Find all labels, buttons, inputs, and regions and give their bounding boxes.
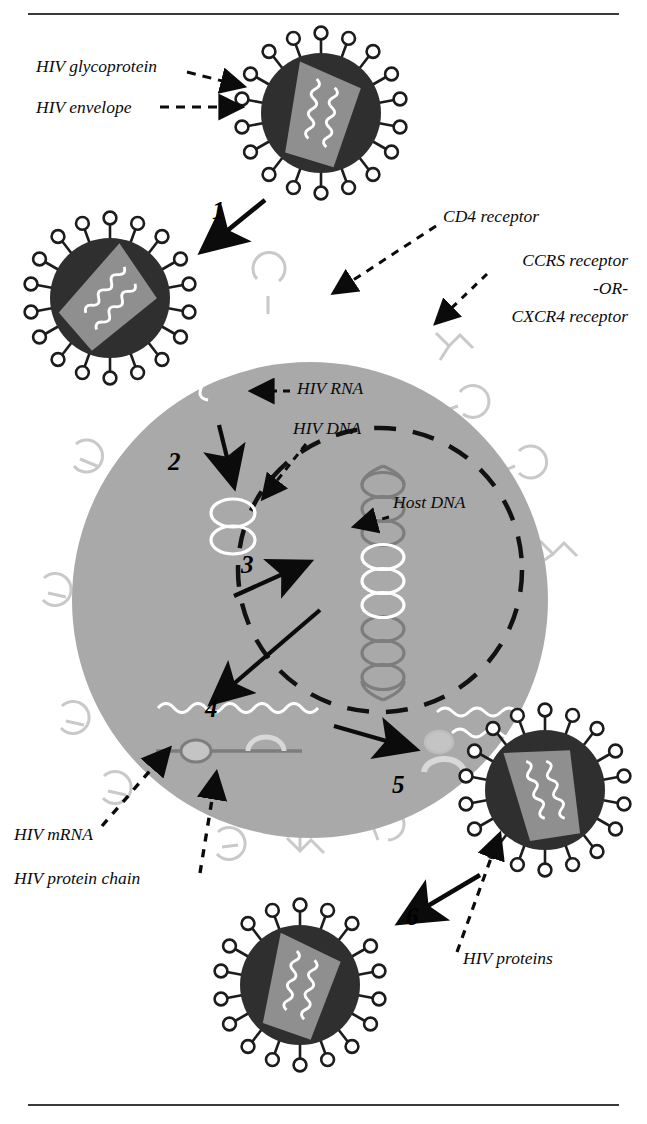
coreceptor [540,541,577,563]
ribosome [181,740,211,762]
label-cxcr4-receptor: CXCR4 receptor [512,306,629,326]
diagram-canvas: HIV glycoprotein HIV envelope CD4 recept… [0,0,647,1124]
label-hiv-glycoprotein: HIV glycoprotein [35,56,157,76]
cd4-receptor [74,440,103,472]
label-hiv-dna: HIV DNA [292,418,362,438]
cd4-receptor [61,702,89,734]
leader-hiv-mrna [102,750,168,826]
step-number-4: 4 [204,695,218,722]
virion-released [215,899,386,1072]
label-ccr5-receptor: CCRS receptor [522,250,628,270]
label-hiv-proteins: HIV proteins [462,948,553,968]
cd4-receptor [253,252,285,314]
label-hiv-protein-chain: HIV protein chain [13,868,141,888]
step-number-5: 5 [392,771,405,798]
step-number-3: 3 [240,551,254,578]
hiv-replication-diagram: HIV glycoprotein HIV envelope CD4 recept… [0,0,647,1124]
label-hiv-rna: HIV RNA [296,378,364,398]
leader-cd4-receptor [335,226,436,292]
cd4-receptor [217,828,245,860]
step-number-2: 2 [167,448,181,475]
step-number-6: 6 [406,903,419,930]
label-hiv-envelope: HIV envelope [35,97,132,117]
step-number-1: 1 [212,197,225,224]
leader-ccr5-receptor [437,274,487,322]
coreceptor [287,837,324,853]
virion-incoming [236,27,407,200]
label-host-dna: Host DNA [392,492,466,512]
virion-fusing [25,212,196,385]
leader-hiv-glycoprotein [187,72,242,86]
coreceptor [436,333,473,360]
label-or-separator: -OR- [593,278,628,298]
label-hiv-mrna: HIV mRNA [13,824,93,844]
label-cd4-receptor: CD4 receptor [443,206,539,226]
cd4-receptor [43,574,71,606]
